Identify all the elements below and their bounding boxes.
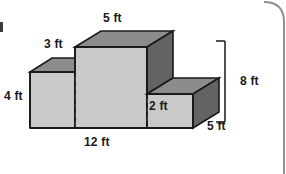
tall-block-front-face [75, 47, 147, 128]
dimension-label-3ft: 3 ft [44, 38, 63, 50]
dimension-label-2ft: 2 ft [149, 100, 168, 112]
dimension-label-4ft: 4 ft [4, 90, 23, 102]
dimension-label-5ft-right: 5 ft [207, 120, 226, 132]
clipped-edge-mark [0, 22, 3, 32]
dimension-label-8ft: 8 ft [240, 75, 259, 87]
left-block-front-face [30, 72, 75, 128]
dimension-label-12ft: 12 ft [84, 136, 110, 148]
dimension-label-5ft-top: 5 ft [103, 12, 122, 24]
page-border-rounded-edge [264, 2, 284, 174]
figure-page: 5 ft 3 ft 4 ft 2 ft 12 ft 8 ft 5 ft [0, 0, 286, 174]
